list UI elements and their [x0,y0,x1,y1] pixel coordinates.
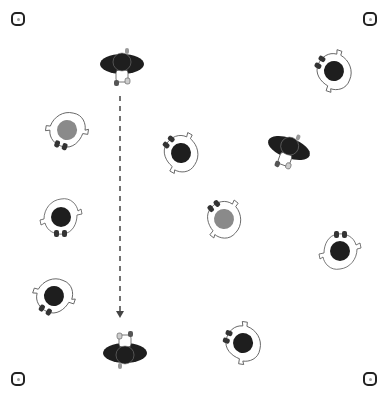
cone-top-left-icon [11,12,25,26]
arrowhead-icon [116,311,124,318]
cone-top-right-icon [363,12,377,26]
cone-bottom-right-icon [363,372,377,386]
drill-diagram [0,0,391,399]
cone-bottom-left-icon [11,372,25,386]
